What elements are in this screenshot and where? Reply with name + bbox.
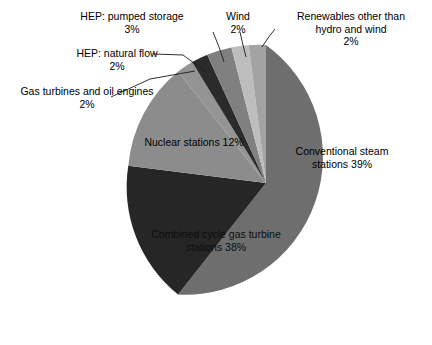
label-percent: 3% (52, 23, 212, 36)
label-hep-natural-flow: HEP: natural flow 2% (52, 47, 182, 72)
label-renewables-other: Renewables other than hydro and wind 2% (276, 10, 426, 48)
label-percent: 2% (52, 60, 182, 73)
label-name: HEP: natural flow (76, 47, 157, 59)
label-percent: 12% (223, 136, 244, 148)
chart-page: HEP: pumped storage 3% Wind 2% Renewable… (0, 0, 432, 345)
label-nuclear-stations: Nuclear stations 12% (140, 136, 248, 149)
label-percent: 38% (225, 241, 246, 253)
label-wind: Wind 2% (208, 10, 268, 35)
label-hep-pumped-storage: HEP: pumped storage 3% (52, 10, 212, 35)
label-name-line2: stations (312, 158, 348, 170)
label-name: Gas turbines and oil engines (20, 85, 153, 97)
label-name-line1: Renewables other than (297, 10, 405, 22)
label-name: HEP: pumped storage (80, 10, 183, 22)
label-ccgt: Combined cycle gas turbine stations 38% (140, 228, 292, 253)
label-name-line2: hydro and wind (315, 23, 386, 35)
label-gas-turbines: Gas turbines and oil engines 2% (2, 85, 172, 110)
label-conventional-steam: Conventional steam stations 39% (281, 145, 403, 170)
label-percent: 39% (351, 158, 372, 170)
label-name-line2: stations (186, 241, 222, 253)
label-name-line1: Combined cycle gas turbine (151, 228, 281, 240)
label-percent: 2% (2, 98, 172, 111)
label-name: Wind (226, 10, 250, 22)
label-percent: 2% (276, 35, 426, 48)
label-name-line1: Conventional steam (296, 145, 389, 157)
label-name: Nuclear stations (144, 136, 219, 148)
label-percent: 2% (208, 23, 268, 36)
